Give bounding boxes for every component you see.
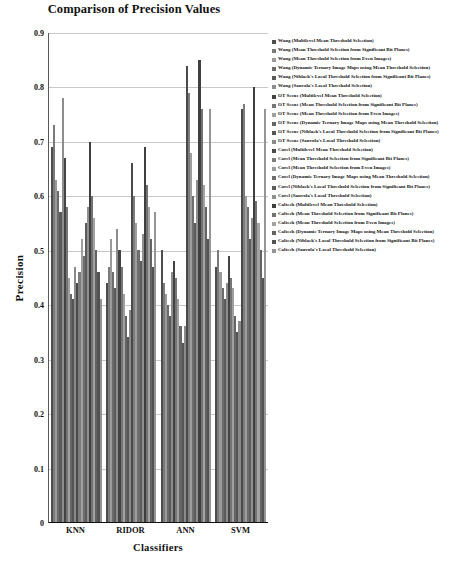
- legend-swatch-icon: [272, 158, 276, 162]
- legend-item[interactable]: Caltech (Mean Threshold Selection from S…: [272, 211, 466, 217]
- legend-item[interactable]: Caltech (Mean Threshold Selection from E…: [272, 220, 466, 226]
- legend-swatch-icon: [272, 204, 276, 208]
- legend-label: OT Scene (Niblack's Local Threshold Sele…: [278, 129, 439, 135]
- precision-bar-chart: Comparison of Precision Values Precision…: [0, 0, 468, 564]
- legend-item[interactable]: Wang (Mean Threshold Selection from Even…: [272, 56, 466, 62]
- legend-swatch-icon: [272, 85, 276, 89]
- bar-group-bars: [161, 33, 212, 522]
- legend-swatch-icon: [272, 104, 276, 108]
- legend-label: OT Scene (Mean Threshold Selection from …: [278, 111, 399, 117]
- y-axis-tick-label: 0.1: [4, 464, 44, 473]
- y-axis-tick-label: 0: [4, 519, 44, 528]
- legend-label: Corel (Niblack's Local Threshold Selecti…: [278, 184, 430, 190]
- legend-item[interactable]: OT Scene (Mean Threshold Selection from …: [272, 111, 466, 117]
- legend-swatch-icon: [272, 149, 276, 153]
- x-axis-tick-label: RIDOR: [103, 525, 158, 535]
- bar-group-bars: [51, 33, 102, 522]
- legend-label: Caltech (Mean Threshold Selection from S…: [278, 211, 413, 217]
- x-axis-tick-label: KNN: [48, 525, 103, 535]
- legend-label: Caltech (Niblack's Local Threshold Selec…: [278, 238, 434, 244]
- legend-swatch-icon: [272, 195, 276, 199]
- y-axis-tick-label: 0.4: [4, 301, 44, 310]
- legend-swatch-icon: [272, 113, 276, 117]
- legend-item[interactable]: Wang (Dynamic Ternary Image Maps using M…: [272, 65, 466, 71]
- legend-item[interactable]: Wang (Mean Threshold Selection from Sign…: [272, 47, 466, 53]
- legend-item[interactable]: Wang (Multilevel Mean Threshold Selectio…: [272, 38, 466, 44]
- legend-swatch-icon: [272, 131, 276, 135]
- legend-item[interactable]: Corel (Dynamic Ternary Image Maps using …: [272, 174, 466, 180]
- legend-label: Corel (Mean Threshold Selection from Eve…: [278, 165, 390, 171]
- y-axis-tick-label: 0.7: [4, 137, 44, 146]
- bar: [264, 109, 266, 522]
- legend-swatch-icon: [272, 249, 276, 253]
- legend-label: Caltech (Mean Threshold Selection from E…: [278, 220, 395, 226]
- bar-group: [213, 33, 268, 522]
- legend-swatch-icon: [272, 176, 276, 180]
- legend-item[interactable]: OT Scene (Multilevel Mean Threshold Sele…: [272, 93, 466, 99]
- legend-label: OT Scene (Sauvola's Local Threshold Sele…: [278, 138, 380, 144]
- legend-item[interactable]: OT Scene (Mean Threshold Selection from …: [272, 102, 466, 108]
- legend-item[interactable]: OT Scene (Niblack's Local Threshold Sele…: [272, 129, 466, 135]
- y-axis-tick-label: 0.9: [4, 29, 44, 38]
- legend-label: Caltech (Sauvola's Local Threshold Selec…: [278, 247, 376, 253]
- x-axis-tick-label: SVM: [213, 525, 268, 535]
- bar-group: [49, 33, 104, 522]
- legend-swatch-icon: [272, 240, 276, 244]
- bar: [209, 109, 211, 522]
- y-axis-tick-label: 0.6: [4, 192, 44, 201]
- legend-label: Wang (Mean Threshold Selection from Even…: [278, 56, 391, 62]
- bar: [100, 299, 102, 522]
- y-axis-tick-label: 0.3: [4, 355, 44, 364]
- legend-item[interactable]: Caltech (Multilevel Mean Threshold Selec…: [272, 202, 466, 208]
- legend-item[interactable]: Corel (Mean Threshold Selection from Eve…: [272, 165, 466, 171]
- legend-item[interactable]: OT Scene (Dynamic Ternary Image Maps usi…: [272, 120, 466, 126]
- legend-label: Wang (Dynamic Ternary Image Maps using M…: [278, 65, 430, 71]
- legend-label: Corel (Dynamic Ternary Image Maps using …: [278, 174, 429, 180]
- legend-item[interactable]: Corel (Mean Threshold Selection from Sig…: [272, 156, 466, 162]
- legend-swatch-icon: [272, 76, 276, 80]
- legend-item[interactable]: Caltech (Niblack's Local Threshold Selec…: [272, 238, 466, 244]
- legend-label: Corel (Mean Threshold Selection from Sig…: [278, 156, 409, 162]
- bar-group-bars: [106, 33, 157, 522]
- y-axis-tick-label: 0.2: [4, 410, 44, 419]
- legend-item[interactable]: Corel (Multilevel Mean Threshold Selecti…: [272, 147, 466, 153]
- legend-item[interactable]: Corel (Sauvola's Local Threshold Selecti…: [272, 193, 466, 199]
- legend-swatch-icon: [272, 222, 276, 226]
- y-axis-tick-label: 0.8: [4, 83, 44, 92]
- legend-item[interactable]: Corel (Niblack's Local Threshold Selecti…: [272, 184, 466, 190]
- plot-area: [48, 33, 268, 523]
- plot-frame: [48, 33, 268, 523]
- legend-item[interactable]: Wang (Sauvola's Local Threshold Selectio…: [272, 83, 466, 89]
- y-axis-label: Precision: [13, 255, 25, 302]
- chart-title: Comparison of Precision Values: [0, 2, 268, 17]
- legend-swatch-icon: [272, 213, 276, 217]
- legend-label: OT Scene (Mean Threshold Selection from …: [278, 102, 418, 108]
- x-axis-label: Classifiers: [48, 542, 268, 553]
- bar: [154, 212, 156, 522]
- legend-swatch-icon: [272, 140, 276, 144]
- bar-groups: [49, 33, 268, 522]
- legend-label: Corel (Sauvola's Local Threshold Selecti…: [278, 193, 371, 199]
- y-axis-label-holder: Precision: [2, 33, 24, 523]
- legend-label: OT Scene (Dynamic Ternary Image Maps usi…: [278, 120, 438, 126]
- legend-label: Wang (Niblack's Local Threshold Selectio…: [278, 74, 431, 80]
- legend-label: Caltech (Dynamic Ternary Image Maps usin…: [278, 229, 434, 235]
- legend-label: Caltech (Multilevel Mean Threshold Selec…: [278, 202, 378, 208]
- legend-label: Wang (Mean Threshold Selection from Sign…: [278, 47, 410, 53]
- legend-label: Wang (Sauvola's Local Threshold Selectio…: [278, 83, 372, 89]
- legend-label: Wang (Multilevel Mean Threshold Selectio…: [278, 38, 374, 44]
- bar-group-bars: [215, 33, 266, 522]
- legend-swatch-icon: [272, 122, 276, 126]
- legend-swatch-icon: [272, 58, 276, 62]
- legend-item[interactable]: Caltech (Sauvola's Local Threshold Selec…: [272, 247, 466, 253]
- legend-swatch-icon: [272, 95, 276, 99]
- y-axis-tick-label: 0.5: [4, 246, 44, 255]
- legend-label: Corel (Multilevel Mean Threshold Selecti…: [278, 147, 373, 153]
- legend-swatch-icon: [272, 186, 276, 190]
- legend-item[interactable]: OT Scene (Sauvola's Local Threshold Sele…: [272, 138, 466, 144]
- legend-swatch-icon: [272, 40, 276, 44]
- legend-label: OT Scene (Multilevel Mean Threshold Sele…: [278, 93, 382, 99]
- x-axis-tick-label: ANN: [158, 525, 213, 535]
- legend-item[interactable]: Wang (Niblack's Local Threshold Selectio…: [272, 74, 466, 80]
- legend-item[interactable]: Caltech (Dynamic Ternary Image Maps usin…: [272, 229, 466, 235]
